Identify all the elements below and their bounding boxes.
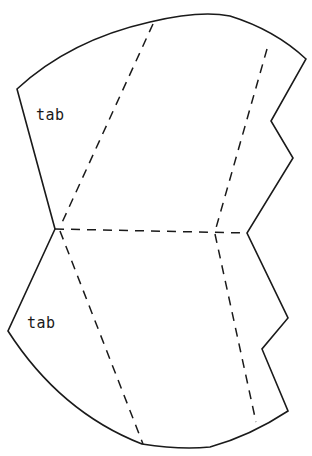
tab-label-upper: tab [36,106,65,124]
paper-net-diagram: tab tab [0,0,312,456]
fold-line-lower-right [215,234,256,422]
fold-line-upper-right [216,49,267,228]
fold-line-upper-left [60,24,153,227]
fold-line-lower-left [60,231,143,444]
tab-label-lower: tab [27,314,56,332]
net-drawing [0,0,312,456]
fold-line-waist [55,229,247,233]
